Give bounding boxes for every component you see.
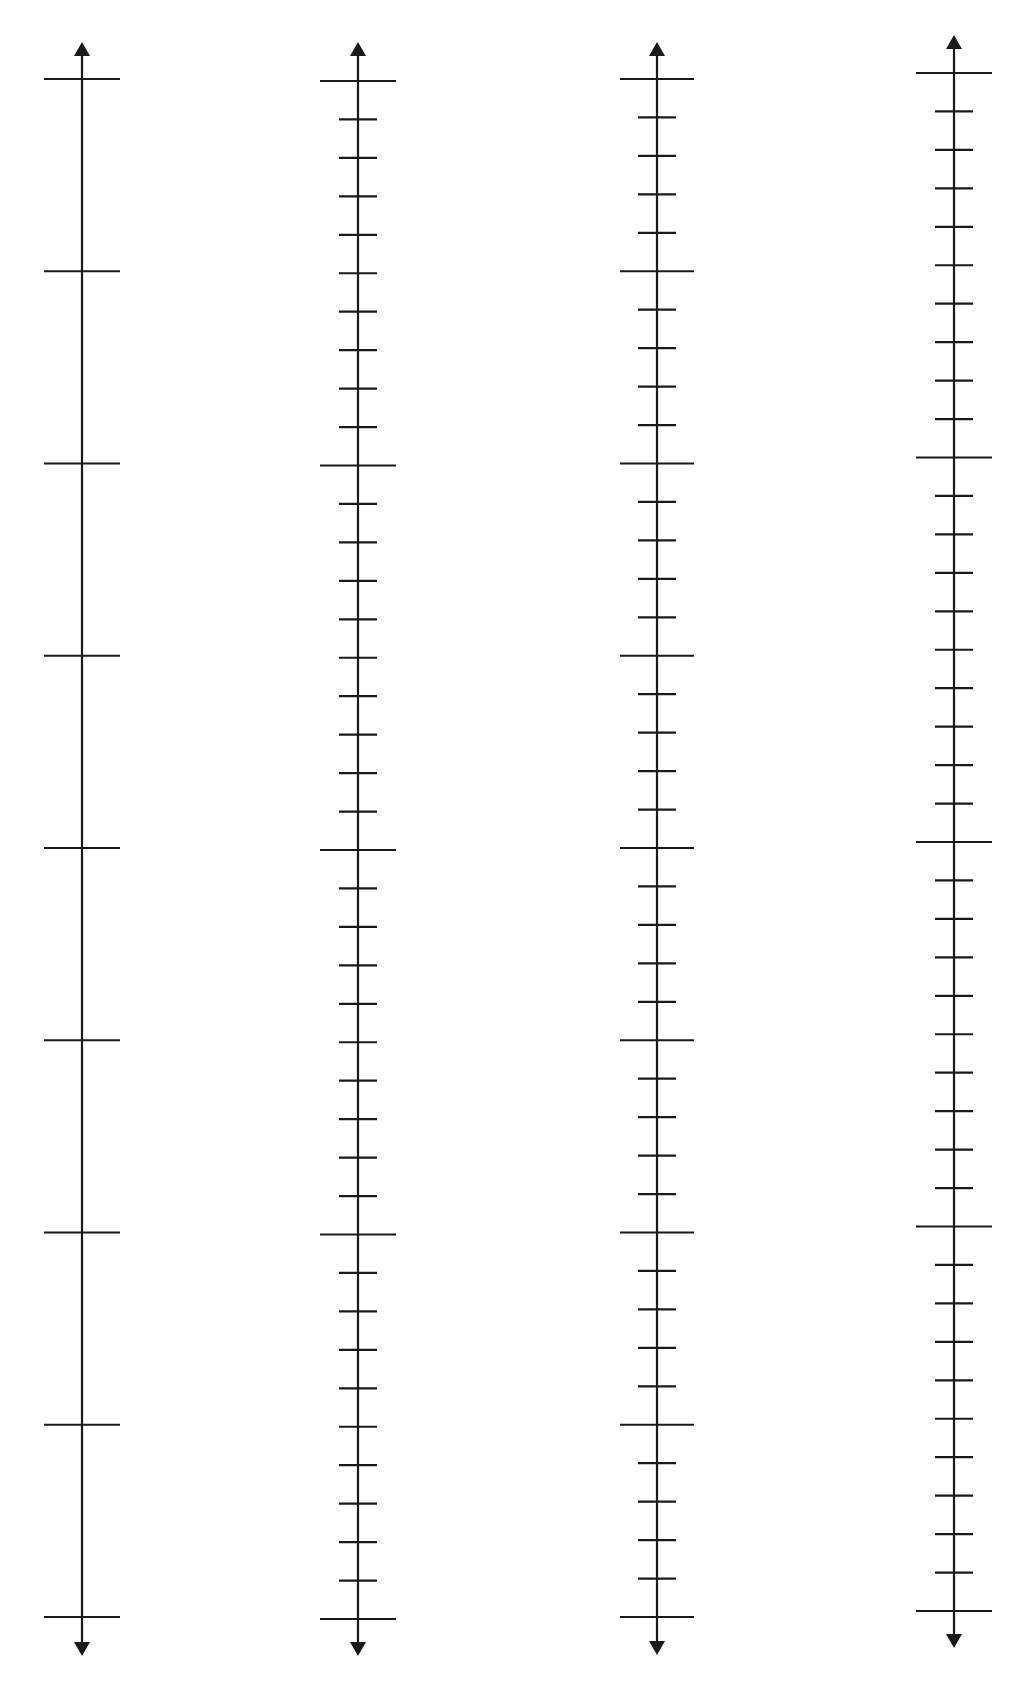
arrow-down-icon <box>350 1642 366 1656</box>
arrow-down-icon <box>74 1642 90 1656</box>
arrow-down-icon <box>946 1634 962 1648</box>
number-line-3 <box>620 42 694 1655</box>
arrow-up-icon <box>350 42 366 56</box>
number-lines-diagram <box>0 0 1026 1682</box>
arrow-up-icon <box>649 42 665 56</box>
number-line-4 <box>916 35 992 1648</box>
number-line-2 <box>320 42 396 1656</box>
number-lines-worksheet <box>0 0 1026 1682</box>
arrow-up-icon <box>946 35 962 49</box>
number-line-1 <box>44 42 120 1656</box>
arrow-down-icon <box>649 1641 665 1655</box>
arrow-up-icon <box>74 42 90 56</box>
